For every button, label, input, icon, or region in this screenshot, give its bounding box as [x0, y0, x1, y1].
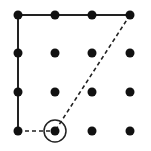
- dashed-line: [55, 15, 130, 131]
- grid-dots: [14, 11, 135, 136]
- grid-dot: [14, 88, 23, 97]
- grid-dot: [88, 127, 97, 136]
- dot-grid-diagram: [0, 0, 151, 151]
- grid-dot: [14, 49, 23, 58]
- grid-dot: [14, 11, 23, 20]
- dashed-path: [18, 15, 130, 131]
- grid-dot: [88, 88, 97, 97]
- solid-line: [18, 15, 130, 131]
- grid-dot: [126, 49, 135, 58]
- grid-dot: [51, 127, 60, 136]
- grid-dot: [51, 49, 60, 58]
- grid-dot: [51, 88, 60, 97]
- grid-dot: [126, 11, 135, 20]
- grid-dot: [51, 11, 60, 20]
- solid-path: [18, 15, 130, 131]
- grid-dot: [126, 127, 135, 136]
- grid-dot: [88, 11, 97, 20]
- grid-dot: [14, 127, 23, 136]
- grid-dot: [88, 49, 97, 58]
- grid-dot: [126, 88, 135, 97]
